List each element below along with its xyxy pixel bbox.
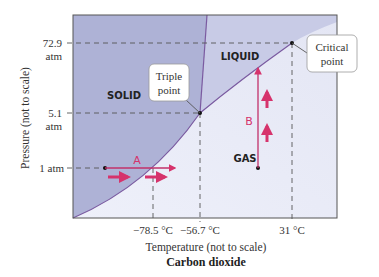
triple-point-line1: Triple [156,70,183,82]
diagram-title: Carbon dioxide [166,255,246,269]
y-tick-72-9: 72.9 [43,37,63,49]
x-tick-neg-56-7: −56.7 °C [180,224,220,236]
y-tick-5-1-unit: atm [46,120,63,132]
y-axis-label: Pressure (not to scale) [19,67,32,169]
gas-label: GAS [233,153,256,164]
path-b-label: B [245,115,253,128]
phase-diagram: A B SOLID LIQUID GAS Triple point Critic… [0,0,379,277]
x-axis-label: Temperature (not to scale) [146,241,267,254]
y-tick-72-9-unit: atm [46,50,63,62]
critical-point-line2: point [321,55,344,67]
x-tick-neg-78-5: −78.5 °C [133,224,173,236]
solid-label: SOLID [107,90,141,101]
critical-point-line1: Critical [316,41,349,53]
x-tick-31: 31 °C [279,224,305,236]
path-a-label: A [133,154,141,167]
y-tick-5-1: 5.1 [48,107,62,119]
y-tick-1-atm: 1 atm [39,162,64,174]
liquid-label: LIQUID [221,51,260,62]
triple-point-line2: point [158,84,181,96]
